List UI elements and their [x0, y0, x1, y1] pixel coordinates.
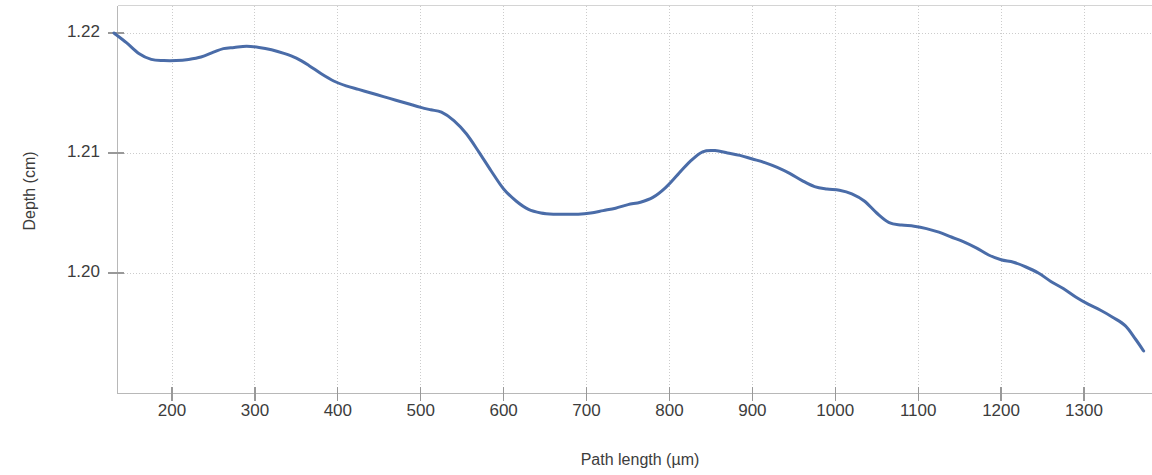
x-axis-tick-label: 800	[629, 401, 709, 421]
x-axis-tick-label: 1000	[795, 401, 875, 421]
x-axis-tick-label: 200	[132, 401, 212, 421]
x-axis-tick-label: 1200	[961, 401, 1041, 421]
y-axis-tick-label: 1.20	[40, 262, 100, 282]
x-axis-tick-label: 400	[298, 401, 378, 421]
data-series	[114, 33, 1144, 351]
gridlines	[118, 6, 1152, 394]
y-axis-tick-label: 1.22	[40, 22, 100, 42]
y-axis-title: Depth (cm)	[21, 116, 39, 266]
tick-marks	[108, 33, 1085, 401]
x-axis-tick-label: 300	[215, 401, 295, 421]
plot-frame	[118, 6, 1152, 394]
series-line	[114, 33, 1144, 351]
x-axis-title: Path length (µm)	[540, 451, 740, 469]
x-axis-tick-label: 1300	[1044, 401, 1124, 421]
x-axis-tick-label: 600	[464, 401, 544, 421]
x-axis-tick-label: 500	[381, 401, 461, 421]
x-axis-tick-label: 1100	[878, 401, 958, 421]
y-axis-tick-label: 1.21	[40, 142, 100, 162]
x-axis-tick-label: 700	[547, 401, 627, 421]
x-axis-tick-label: 900	[712, 401, 792, 421]
chart-figure: 1.201.211.22 200300400500600700800900100…	[0, 0, 1152, 475]
x-axis-tick-labels: 2003004005006007008009001000110012001300	[0, 401, 1152, 431]
